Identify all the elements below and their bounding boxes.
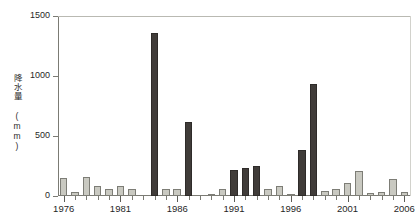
bar-1987 xyxy=(185,122,192,196)
bar-2002 xyxy=(355,171,362,196)
bar-1978 xyxy=(83,177,90,196)
plot-right-border xyxy=(410,16,411,196)
x-tick-1991 xyxy=(234,196,235,202)
x-tick-1980 xyxy=(109,196,110,200)
bar-1985 xyxy=(162,189,169,196)
bar-1994 xyxy=(264,189,271,196)
bar-1980 xyxy=(105,189,112,196)
x-tick-2006 xyxy=(404,196,405,202)
x-tick-1994 xyxy=(268,196,269,200)
x-tick-1996 xyxy=(291,196,292,202)
x-tick-2003 xyxy=(370,196,371,200)
x-tick-1979 xyxy=(98,196,99,200)
bar-1984 xyxy=(151,33,158,196)
x-tick-1998 xyxy=(313,196,314,200)
bar-2001 xyxy=(344,183,351,196)
x-tick-1997 xyxy=(302,196,303,200)
x-tick-1981 xyxy=(120,196,121,202)
bar-1997 xyxy=(298,150,305,196)
x-tick-label-1986: 1986 xyxy=(167,204,188,214)
x-tick-label-2006: 2006 xyxy=(394,204,415,214)
precipitation-bar-chart: 降水量 (mm) 050010001500 197619811986199119… xyxy=(0,0,419,223)
bar-1976 xyxy=(60,178,67,196)
y-tick-label-0: 0 xyxy=(0,191,50,200)
x-tick-1992 xyxy=(245,196,246,200)
x-tick-label-1981: 1981 xyxy=(110,204,131,214)
x-tick-1986 xyxy=(177,196,178,202)
y-tick-label-1500: 1500 xyxy=(0,11,50,20)
bar-1995 xyxy=(276,186,283,196)
x-tick-1990 xyxy=(223,196,224,200)
bar-1990 xyxy=(219,189,226,196)
x-tick-1977 xyxy=(75,196,76,200)
x-tick-1976 xyxy=(64,196,65,202)
x-tick-1984 xyxy=(155,196,156,200)
x-tick-2005 xyxy=(393,196,394,200)
bar-1998 xyxy=(310,84,317,196)
x-tick-1988 xyxy=(200,196,201,200)
bar-1979 xyxy=(94,186,101,196)
bars-layer xyxy=(58,16,410,196)
y-tick-0 xyxy=(53,196,58,197)
x-tick-2004 xyxy=(382,196,383,200)
bar-1992 xyxy=(242,168,249,196)
x-tick-label-1976: 1976 xyxy=(53,204,74,214)
x-tick-1993 xyxy=(257,196,258,200)
bar-1986 xyxy=(173,189,180,196)
bar-1982 xyxy=(128,189,135,196)
x-tick-2001 xyxy=(348,196,349,202)
bar-2005 xyxy=(389,179,396,196)
x-tick-label-1996: 1996 xyxy=(280,204,301,214)
x-tick-label-2001: 2001 xyxy=(337,204,358,214)
y-tick-label-1000: 1000 xyxy=(0,71,50,80)
bar-1991 xyxy=(230,170,237,196)
x-tick-label-1991: 1991 xyxy=(223,204,244,214)
x-tick-1983 xyxy=(143,196,144,200)
x-tick-1987 xyxy=(189,196,190,200)
bar-2000 xyxy=(332,189,339,196)
x-tick-1995 xyxy=(279,196,280,200)
y-tick-label-500: 500 xyxy=(0,131,50,140)
x-tick-1989 xyxy=(211,196,212,200)
x-tick-2002 xyxy=(359,196,360,200)
bar-1981 xyxy=(117,186,124,196)
x-tick-1978 xyxy=(86,196,87,200)
x-tick-2000 xyxy=(336,196,337,200)
x-tick-1982 xyxy=(132,196,133,200)
bar-1993 xyxy=(253,166,260,196)
x-tick-1985 xyxy=(166,196,167,200)
x-tick-1999 xyxy=(325,196,326,200)
